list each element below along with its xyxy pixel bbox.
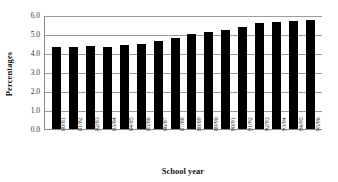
x-tick-label: 82/83 bbox=[94, 117, 101, 131]
bar-slot bbox=[302, 16, 319, 129]
y-tick-label: 1.0 bbox=[16, 107, 40, 115]
bar[interactable] bbox=[238, 27, 247, 129]
y-tick-label: 0.0 bbox=[16, 126, 40, 134]
bar[interactable] bbox=[221, 30, 230, 129]
x-tick-label: 90/91 bbox=[230, 117, 237, 131]
x-tick-label: 93/94 bbox=[281, 117, 288, 131]
bar-slot bbox=[285, 16, 302, 129]
x-tick-slot: 88/89 bbox=[183, 131, 200, 163]
x-tick-slot: 85/86 bbox=[132, 131, 149, 163]
bar-slot bbox=[65, 16, 82, 129]
bar[interactable] bbox=[171, 38, 180, 129]
x-tick-label: 85/86 bbox=[145, 117, 152, 131]
x-tick-label: 94/95 bbox=[298, 117, 305, 131]
x-tick-slot: 95/96 bbox=[302, 131, 319, 163]
x-tick-slot: 94/95 bbox=[285, 131, 302, 163]
bars-layer bbox=[45, 16, 322, 129]
x-tick-label: 91/92 bbox=[247, 117, 254, 131]
bar-slot bbox=[217, 16, 234, 129]
bar-chart-figure: Percentages 6.05.04.03.02.01.00.0 80/818… bbox=[0, 0, 338, 182]
plot-area bbox=[44, 16, 322, 130]
bar-slot bbox=[116, 16, 133, 129]
x-tick-label: 88/89 bbox=[196, 117, 203, 131]
x-tick-label: 84/85 bbox=[128, 117, 135, 131]
bar-slot bbox=[150, 16, 167, 129]
x-tick-slot: 91/92 bbox=[234, 131, 251, 163]
y-tick-label: 5.0 bbox=[16, 31, 40, 39]
bar[interactable] bbox=[289, 21, 298, 129]
y-tick-label: 3.0 bbox=[16, 69, 40, 77]
x-tick-slot: 90/91 bbox=[217, 131, 234, 163]
x-tick-slot: 84/85 bbox=[115, 131, 132, 163]
y-axis-title-text: Percentages bbox=[4, 52, 14, 96]
x-tick-label: 95/96 bbox=[315, 117, 322, 131]
bar[interactable] bbox=[306, 20, 315, 129]
x-tick-slot: 83/84 bbox=[98, 131, 115, 163]
y-tick-label: 4.0 bbox=[16, 50, 40, 58]
bar[interactable] bbox=[137, 44, 146, 130]
y-axis-title: Percentages bbox=[2, 32, 16, 116]
x-tick-slot: 80/81 bbox=[47, 131, 64, 163]
x-tick-label: 86/87 bbox=[162, 117, 169, 131]
bar-slot bbox=[82, 16, 99, 129]
bar-slot bbox=[251, 16, 268, 129]
x-tick-slot: 87/88 bbox=[166, 131, 183, 163]
bar-slot bbox=[133, 16, 150, 129]
x-tick-label: 80/81 bbox=[60, 117, 67, 131]
x-tick-slot: 92/93 bbox=[251, 131, 268, 163]
bar[interactable] bbox=[187, 34, 196, 129]
x-tick-slot: 89/90 bbox=[200, 131, 217, 163]
y-tick-label: 2.0 bbox=[16, 88, 40, 96]
x-axis-title: School year bbox=[44, 166, 322, 176]
bar-slot bbox=[184, 16, 201, 129]
bar-slot bbox=[99, 16, 116, 129]
x-tick-label: 81/82 bbox=[77, 117, 84, 131]
bar[interactable] bbox=[204, 32, 213, 129]
bar[interactable] bbox=[255, 23, 264, 129]
bar-slot bbox=[200, 16, 217, 129]
x-axis-tick-labels: 80/8181/8282/8383/8484/8585/8686/8787/88… bbox=[44, 131, 322, 163]
x-tick-label: 92/93 bbox=[264, 117, 271, 131]
x-tick-label: 83/84 bbox=[111, 117, 118, 131]
bar-slot bbox=[234, 16, 251, 129]
bar-slot bbox=[167, 16, 184, 129]
bar-slot bbox=[48, 16, 65, 129]
x-tick-label: 87/88 bbox=[179, 117, 186, 131]
x-tick-slot: 82/83 bbox=[81, 131, 98, 163]
x-tick-slot: 93/94 bbox=[268, 131, 285, 163]
x-tick-slot: 86/87 bbox=[149, 131, 166, 163]
x-tick-slot: 81/82 bbox=[64, 131, 81, 163]
y-axis-tick-labels: 6.05.04.03.02.01.00.0 bbox=[16, 10, 42, 134]
bar-slot bbox=[268, 16, 285, 129]
bar[interactable] bbox=[272, 22, 281, 129]
y-tick-label: 6.0 bbox=[16, 12, 40, 20]
bar[interactable] bbox=[154, 41, 163, 129]
x-tick-label: 89/90 bbox=[213, 117, 220, 131]
